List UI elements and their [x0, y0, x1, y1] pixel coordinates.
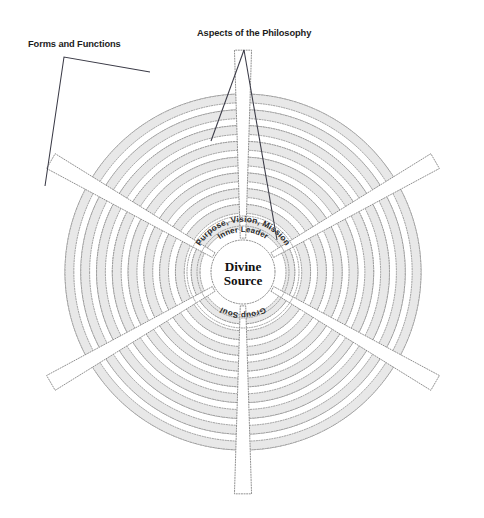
diagram-canvas: Purpose, Vision, Mission Inner Leader Gr… — [0, 0, 484, 518]
radial-diagram: Purpose, Vision, Mission Inner Leader Gr… — [0, 0, 484, 518]
center-label-line2: Source — [224, 273, 263, 288]
callout-label-aspects-of-the-philosophy: Aspects of the Philosophy — [197, 28, 312, 38]
callout-label-forms-and-functions: Forms and Functions — [28, 39, 121, 49]
callout-text-group: Forms and Functions Aspects of the Philo… — [28, 28, 312, 49]
center-label-line1: Divine — [225, 259, 262, 274]
center-label-group: Divine Source — [224, 259, 263, 288]
